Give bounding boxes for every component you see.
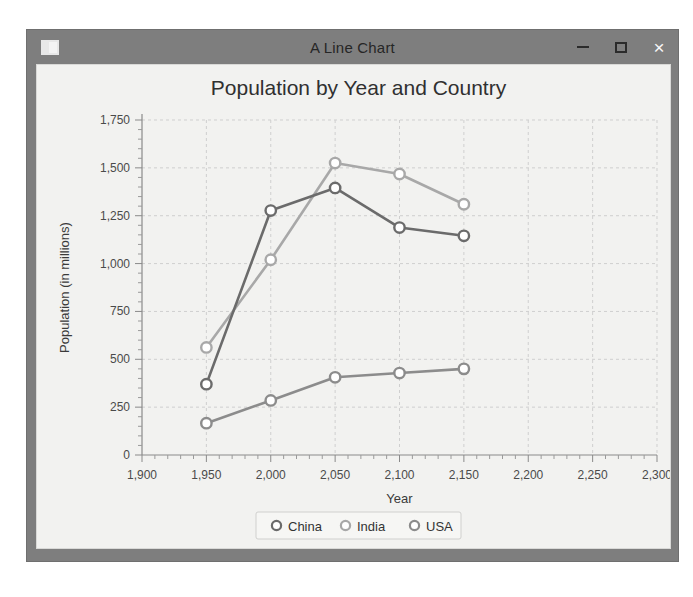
- close-button[interactable]: ×: [640, 30, 678, 64]
- y-tick-label: 750: [110, 304, 130, 318]
- legend-label-china[interactable]: China: [288, 519, 323, 534]
- data-point[interactable]: [201, 379, 211, 389]
- x-tick-label: 2,000: [256, 468, 286, 482]
- y-axis-title: Population (in millions): [57, 222, 72, 353]
- y-tick-label: 500: [110, 352, 130, 366]
- data-point[interactable]: [266, 205, 276, 215]
- chart-svg: Population by Year and Country0250500750…: [37, 65, 670, 548]
- x-tick-label: 2,050: [320, 468, 350, 482]
- x-tick-label: 1,950: [191, 468, 221, 482]
- data-point[interactable]: [266, 255, 276, 265]
- data-point[interactable]: [459, 364, 469, 374]
- data-point[interactable]: [330, 158, 340, 168]
- close-icon: ×: [653, 38, 664, 57]
- legend-marker-india[interactable]: [341, 521, 350, 530]
- data-point[interactable]: [201, 418, 211, 428]
- legend-label-india[interactable]: India: [357, 519, 386, 534]
- x-tick-label: 1,900: [127, 468, 157, 482]
- x-tick-label: 2,200: [513, 468, 543, 482]
- y-tick-label: 1,250: [100, 209, 130, 223]
- maximize-button[interactable]: [602, 30, 640, 64]
- minimize-button[interactable]: [564, 30, 602, 64]
- legend-marker-china[interactable]: [272, 521, 281, 530]
- data-point[interactable]: [394, 222, 404, 232]
- chart-client-area: Population by Year and Country0250500750…: [36, 64, 671, 549]
- data-point[interactable]: [459, 231, 469, 241]
- data-point[interactable]: [266, 395, 276, 405]
- x-tick-label: 2,100: [384, 468, 414, 482]
- data-point[interactable]: [394, 169, 404, 179]
- x-tick-label: 2,300: [642, 468, 670, 482]
- window-controls: ×: [564, 30, 678, 64]
- data-point[interactable]: [201, 342, 211, 352]
- data-point[interactable]: [394, 368, 404, 378]
- data-point[interactable]: [330, 372, 340, 382]
- x-tick-label: 2,150: [449, 468, 479, 482]
- y-tick-label: 0: [123, 448, 130, 462]
- y-tick-label: 1,500: [100, 161, 130, 175]
- x-tick-label: 2,250: [578, 468, 608, 482]
- window-titlebar[interactable]: A Line Chart ×: [27, 30, 678, 64]
- minimize-icon: [577, 46, 589, 48]
- data-point[interactable]: [330, 183, 340, 193]
- screen: A Line Chart × Population by Year and Co…: [0, 0, 693, 597]
- application-window: A Line Chart × Population by Year and Co…: [26, 29, 679, 562]
- line-chart: Population by Year and Country0250500750…: [37, 65, 670, 548]
- x-axis-title: Year: [386, 491, 413, 506]
- y-tick-label: 250: [110, 400, 130, 414]
- legend-marker-usa[interactable]: [410, 521, 419, 530]
- window-icon: [41, 40, 59, 55]
- data-point[interactable]: [459, 199, 469, 209]
- y-tick-label: 1,750: [100, 113, 130, 127]
- chart-title: Population by Year and Country: [211, 76, 507, 99]
- maximize-icon: [615, 42, 627, 53]
- y-tick-label: 1,000: [100, 257, 130, 271]
- legend-label-usa[interactable]: USA: [426, 519, 453, 534]
- series-china: [201, 183, 469, 390]
